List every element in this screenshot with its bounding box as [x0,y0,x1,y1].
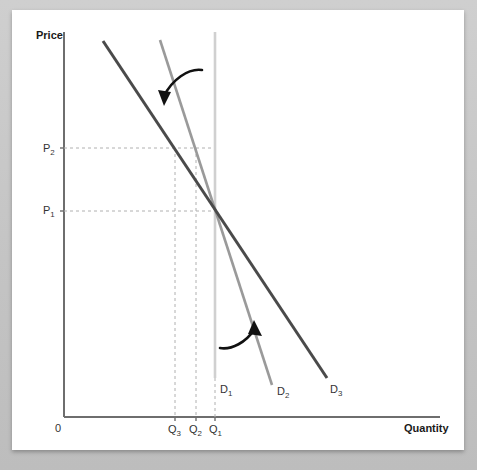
origin-label: 0 [55,423,61,434]
quantity-tick-q1: Q1 [209,424,222,435]
quantity-tick-q1-main: Q [209,423,218,435]
y-axis-title: Price [36,30,63,41]
quantity-tick-q1-sub: 1 [218,429,222,438]
curve-label-d3: D3 [330,384,342,395]
curve-label-d3-sub: 3 [338,389,342,398]
quantity-tick-q3-sub: 3 [177,429,181,438]
curve-label-d3-main: D [330,383,338,395]
price-tick-p1-sub: 1 [50,210,54,219]
price-tick-p2: P2 [43,143,55,154]
price-tick-p2-sub: 2 [50,148,54,157]
curve-label-d2-sub: 2 [285,391,289,400]
rotation-arrow-lower [220,320,262,348]
curve-label-d1: D1 [220,384,232,395]
curve-label-d2-main: D [277,385,285,397]
quantity-tick-q3-main: Q [168,423,177,435]
quantity-tick-q2-main: Q [189,423,198,435]
quantity-tick-q2-sub: 2 [198,429,202,438]
demand-curve-diagram [0,0,477,470]
curve-label-d1-main: D [220,383,228,395]
curve-label-d2: D2 [277,386,289,397]
quantity-tick-q2: Q2 [189,424,202,435]
x-axis-title: Quantity [404,423,449,434]
quantity-tick-q3: Q3 [168,424,181,435]
curve-label-d1-sub: 1 [228,389,232,398]
price-tick-p1: P1 [43,205,55,216]
